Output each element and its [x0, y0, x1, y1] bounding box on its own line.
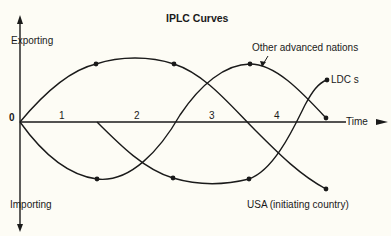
- importing-label: Importing: [10, 200, 52, 210]
- ldcs-curve: [97, 80, 327, 184]
- period-4-label: 4: [274, 111, 280, 121]
- ldcs-end-dot: [325, 78, 330, 83]
- exporting-label: Exporting: [11, 36, 53, 46]
- diagram-title: IPLC Curves: [166, 13, 228, 24]
- usa-end-dot: [324, 187, 329, 192]
- up-arrow-icon: [17, 15, 23, 24]
- other-nations-dot: [95, 177, 100, 182]
- down-arrow-icon: [17, 224, 23, 232]
- ldcs-dot: [171, 176, 176, 181]
- usa-label: USA (initiating country): [247, 200, 349, 210]
- other-nations-dot: [248, 62, 253, 67]
- usa-dot: [94, 62, 99, 67]
- time-arrow-icon: [376, 119, 388, 125]
- ldcs-dot: [247, 177, 252, 182]
- period-2-label: 2: [134, 111, 140, 121]
- other-advanced-nations-label: Other advanced nations: [252, 43, 358, 53]
- usa-curve: [20, 58, 326, 189]
- iplc-diagram: IPLC Curves Exporting Importing 0 Time 1…: [0, 0, 391, 236]
- usa-dot: [172, 62, 177, 67]
- other-nations-end-dot: [324, 116, 329, 121]
- time-axis-label: Time: [346, 117, 368, 127]
- period-3-label: 3: [209, 111, 215, 121]
- origin-label: 0: [9, 113, 15, 123]
- period-1-label: 1: [59, 111, 65, 121]
- ldcs-label: LDC s: [331, 75, 359, 85]
